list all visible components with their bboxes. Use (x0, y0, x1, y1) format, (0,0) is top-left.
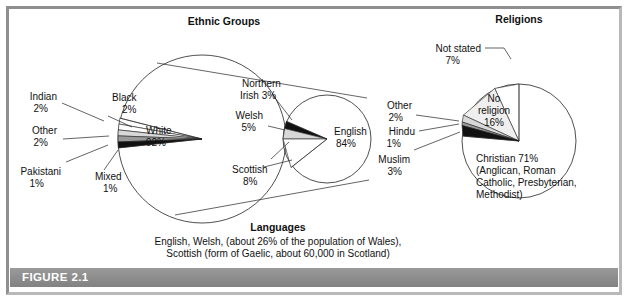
label-not-stated: Not stated (435, 43, 481, 54)
figure-caption-bar: FIGURE 2.1 (10, 268, 618, 287)
label-christian-3: Catholic, Presbyterian, (476, 177, 577, 188)
label-welsh-pct: 5% (242, 122, 257, 133)
label-other-ethnic: Other (32, 125, 58, 136)
label-not-stated-pct: 7% (446, 55, 461, 66)
label-black-pct: 2% (122, 104, 137, 115)
religions-title: Religions (495, 13, 542, 25)
label-welsh: Welsh (235, 110, 263, 121)
label-scottish-pct: 8% (243, 176, 258, 187)
label-white-pct: 92% (146, 137, 166, 148)
label-black: Black (112, 92, 137, 103)
label-white: White (146, 125, 172, 136)
label-no-religion-pct: 16% (484, 117, 504, 128)
label-hindu-pct: 1% (387, 138, 402, 149)
slice-scottish (283, 139, 327, 168)
label-northern-irish-1: Northern (242, 78, 281, 89)
languages-line-1: English, Welsh, (about 26% of the popula… (155, 236, 402, 247)
label-no-religion-1: No (488, 93, 501, 104)
label-other-religion-pct: 2% (389, 112, 404, 123)
label-other-ethnic-pct: 2% (34, 137, 49, 148)
label-pakistani: Pakistani (20, 166, 61, 177)
label-english: English (334, 126, 367, 137)
figure-artwork: Ethnic Groups Religions (0, 0, 628, 301)
label-christian-4: Methodist) (476, 189, 523, 200)
label-no-religion-2: religion (478, 105, 510, 116)
label-indian-pct: 2% (34, 103, 49, 114)
label-pakistani-pct: 1% (30, 178, 45, 189)
languages-title: Languages (250, 221, 306, 233)
label-muslim: Muslim (378, 154, 410, 165)
white-breakdown-pie (283, 95, 371, 183)
languages-line-2: Scottish (form of Gaelic, about 60,000 i… (166, 248, 389, 259)
label-christian-1: Christian 71% (476, 153, 538, 164)
label-northern-irish-2: Irish 3% (240, 90, 276, 101)
label-christian-2: (Anglican, Roman (476, 165, 555, 176)
ethnic-groups-title: Ethnic Groups (188, 15, 260, 27)
label-mixed-pct: 1% (103, 183, 118, 194)
label-other-religion: Other (387, 100, 413, 111)
label-english-pct: 84% (336, 138, 356, 149)
label-indian: Indian (30, 91, 57, 102)
figure-container: Ethnic Groups Religions (0, 0, 628, 301)
figure-caption-label: FIGURE 2.1 (22, 271, 89, 283)
label-hindu: Hindu (389, 126, 415, 137)
label-muslim-pct: 3% (388, 166, 403, 177)
label-scottish: Scottish (232, 164, 268, 175)
label-mixed: Mixed (95, 171, 122, 182)
